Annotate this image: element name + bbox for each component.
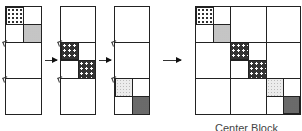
block-checker [6,7,24,25]
divider [115,96,149,97]
arrow-right-icon [163,60,181,61]
divider [61,60,95,61]
panel-3 [114,6,150,115]
divider [283,78,284,114]
caption: Center Block [215,122,278,131]
divider [23,24,24,43]
panel-1 [5,6,42,115]
divider [248,42,249,78]
divider [23,7,24,24]
panel-2 [60,6,96,115]
block-dark-dotted [248,60,267,79]
block-checker [196,7,214,25]
block-dark-dotted [78,60,96,79]
block-stipple-dark [132,96,150,115]
arrow-right-icon [45,60,57,61]
block-stipple-light [266,78,284,97]
divider [213,7,214,42]
block-dark-dotted [230,42,249,60]
divider [6,42,41,43]
block-stipple-dark [283,96,300,114]
divider [6,78,41,79]
divider [115,42,149,43]
block-stipple-light [23,24,42,43]
arrow-right-icon [99,60,111,61]
result-matrix [195,6,301,115]
block-stipple-light [213,24,231,43]
divider [6,24,23,25]
